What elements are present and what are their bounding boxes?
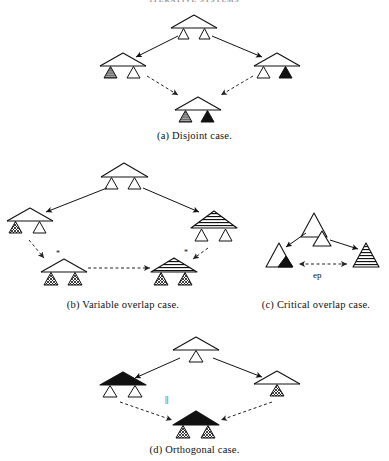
figure-container: ITERATIVE SYSTEMS — [0, 0, 389, 461]
edge-b-root-right — [143, 188, 199, 212]
panel-c-critical-overlap — [266, 213, 379, 267]
label-parallel: || — [165, 394, 169, 404]
node-a-merged — [175, 97, 221, 122]
node-b-merged-right — [151, 258, 197, 285]
node-c-left — [266, 243, 293, 267]
edge-b-root-left — [46, 188, 107, 212]
edge-b-right-mergedright — [193, 248, 208, 259]
marker-b-right-star: * — [184, 248, 188, 257]
marker-b-left-star: * — [56, 249, 60, 258]
edge-d-right-merged — [221, 402, 272, 420]
caption-b-variable-overlap: (b) Variable overlap case. — [8, 299, 238, 310]
caption-c-critical-overlap: (c) Critical overlap case. — [243, 299, 389, 310]
edge-a-root-right — [212, 36, 262, 57]
edge-b-left-mergedleft — [29, 240, 44, 258]
edge-a-right-merged — [221, 76, 253, 95]
node-b-root — [101, 163, 148, 189]
caption-a-disjoint: (a) Disjoint case. — [0, 130, 389, 141]
node-b-merged-left — [41, 259, 87, 285]
figure-diagram: * * — [0, 0, 389, 461]
panel-a-disjoint — [100, 15, 300, 122]
edge-d-root-left — [135, 358, 180, 378]
node-a-left — [100, 53, 146, 78]
edge-c-top-left — [286, 233, 306, 247]
node-d-merged — [173, 411, 219, 438]
edge-a-left-merged — [147, 76, 178, 95]
panel-d-orthogonal — [100, 337, 300, 438]
node-d-right — [254, 371, 300, 396]
edge-a-root-left — [136, 36, 178, 57]
node-c-right — [353, 243, 379, 267]
node-b-right — [191, 211, 237, 241]
edge-c-top-right — [330, 240, 358, 249]
edge-d-root-right — [213, 358, 262, 377]
edge-d-left-merged — [120, 402, 172, 420]
node-a-root — [171, 15, 217, 39]
label-ep: ep — [313, 270, 322, 280]
node-c-top — [301, 213, 331, 246]
panel-b-variable-overlap: * * — [7, 163, 237, 285]
caption-d-orthogonal: (d) Orthogonal case. — [0, 444, 389, 455]
